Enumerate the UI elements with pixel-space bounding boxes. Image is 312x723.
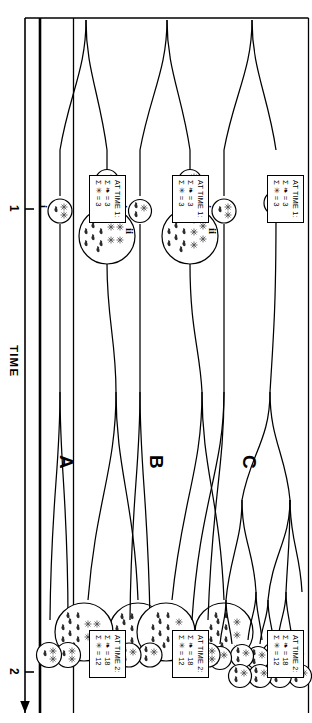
panel-A-lineage-i-label: i [38,205,50,208]
flower-icon: ✳ [176,187,185,194]
legend-title: AT TIME 1: [113,180,122,218]
panel-A-nodes [37,170,168,668]
panel-letter-C: C [238,455,260,469]
figure-rotator: A B C ii i ii i ii i AT TIME 1: Σ❧ = 3 Σ… [0,0,312,723]
legend-row-bee: Σ❧ = 3 [186,180,195,218]
panel-A-lineage-ii-label: ii [124,228,136,234]
bee-icon: ❧ [103,642,112,649]
bee-icon: ❧ [103,187,112,194]
flower-icon: ✳ [93,642,102,649]
panel-A-tree [50,20,138,620]
panel-B-tree [130,20,224,620]
legend-row-flower: Σ✳ = 12 [93,635,102,673]
legend-title: AT TIME 2: [113,635,122,673]
legend-row-flower: Σ✳ = 3 [93,180,102,218]
flower-icon: ✳ [176,642,185,649]
flower-icon: ✳ [271,187,280,194]
panel-letter-B: B [145,455,167,469]
panel-A-legend-time1: AT TIME 1: Σ❧ = 3 Σ✳ = 3 [89,175,126,223]
panel-letter-A: A [55,455,77,469]
legend-row-bee: Σ❧ = 18 [103,635,112,673]
legend-title: AT TIME 2: [196,635,205,673]
panel-C-legend-time1: AT TIME 1:Σ❧=3Σ✳=3 [267,175,304,223]
legend-row-bee: Σ❧=18 [281,635,290,673]
panel-A-legend-time2: AT TIME 2: Σ❧ = 18 Σ✳ = 12 [89,630,126,678]
legend-row-bee: Σ❧=3 [281,180,290,218]
time-axis-line [20,18,34,713]
legend-title: AT TIME 2: [291,635,300,673]
legend-row-flower: Σ✳=3 [271,180,280,218]
panel-C-legend-time2: AT TIME 2:Σ❧=18Σ✳=12 [267,630,304,678]
flower-icon: ✳ [93,187,102,194]
bee-icon: ❧ [186,187,195,194]
legend-row-flower: Σ✳=12 [271,635,280,673]
legend-title: AT TIME 1: [291,180,300,218]
axis-tick-1: 1 [7,205,21,212]
bee-icon: ❧ [281,187,290,194]
axis-tick-2: 2 [7,668,21,675]
legend-row-flower: Σ✳ = 3 [176,180,185,218]
panel-B-lineage-ii-label: ii [207,228,219,234]
bee-icon: ❧ [186,642,195,649]
legend-title: AT TIME 1: [196,180,205,218]
panel-C-tree [192,20,302,644]
panel-B-legend-time1: AT TIME 1: Σ❧ = 3 Σ✳ = 3 [172,175,209,223]
figure-linework [0,0,312,723]
legend-row-bee: Σ❧ = 18 [186,635,195,673]
legend-row-bee: Σ❧ = 3 [103,180,112,218]
coevolution-figure: A B C ii i ii i ii i AT TIME 1: Σ❧ = 3 Σ… [0,0,312,723]
bee-icon: ❧ [281,642,290,649]
legend-row-flower: Σ✳ = 12 [176,635,185,673]
flower-icon: ✳ [271,642,280,649]
axis-title-time: TIME [8,345,20,377]
panel-B-legend-time2: AT TIME 2: Σ❧ = 18 Σ✳ = 12 [172,630,209,678]
